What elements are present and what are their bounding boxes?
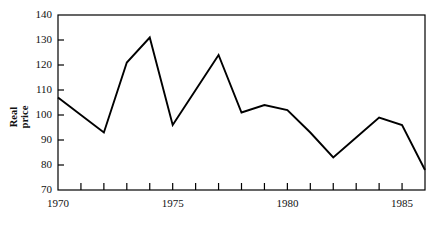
y-axis-tick-label: 100	[26, 108, 52, 120]
y-axis-tick-label: 80	[26, 158, 52, 170]
y-axis-tick-label: 140	[26, 8, 52, 20]
y-axis-tick-label: 120	[26, 58, 52, 70]
y-axis-tick-label: 130	[26, 33, 52, 45]
x-axis-tick-label: 1980	[267, 197, 307, 209]
x-axis-tick-label: 1975	[153, 197, 193, 209]
x-axis-tick-label: 1985	[382, 197, 422, 209]
chart-figure: Real price 70809010011012013014019701975…	[0, 0, 435, 225]
y-axis-tick-label: 110	[26, 83, 52, 95]
y-axis-tick-label: 90	[26, 133, 52, 145]
y-axis-tick-label: 70	[26, 183, 52, 195]
plot-area	[0, 0, 435, 225]
x-axis-tick-label: 1970	[38, 197, 78, 209]
